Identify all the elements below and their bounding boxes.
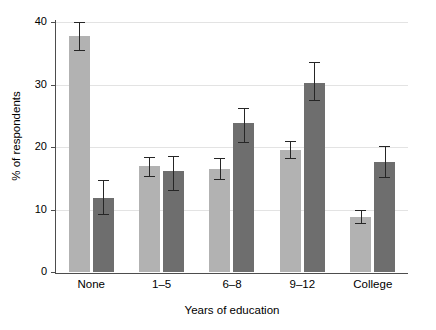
error-bar [149, 157, 150, 176]
error-bar-cap-lower [74, 50, 85, 51]
error-bar-cap-upper [214, 158, 225, 159]
y-axis-tick-label: 20 [35, 139, 47, 154]
y-axis-tick-label: 0 [41, 264, 47, 279]
bar [374, 162, 395, 272]
error-bar-cap-upper [285, 141, 296, 142]
error-bar [220, 158, 221, 179]
bar-group: College [338, 22, 408, 272]
error-bar-cap-upper [379, 146, 390, 147]
error-bar-cap-lower [285, 158, 296, 159]
error-bar-cap-upper [74, 22, 85, 23]
error-bar [314, 62, 315, 100]
x-axis-line [55, 273, 408, 274]
error-bar-cap-upper [238, 108, 249, 109]
y-axis-tick-label: 10 [35, 202, 47, 217]
error-bar-cap-lower [309, 100, 320, 101]
error-bar-cap-lower [238, 142, 249, 143]
error-bar [244, 108, 245, 142]
y-axis-tick-label: 30 [35, 77, 47, 92]
error-bar [79, 22, 80, 50]
bar-chart-figure: % of respondents 010203040 None1–56–89–1… [0, 0, 436, 330]
bar-group: None [56, 22, 126, 272]
error-bar-cap-lower [355, 223, 366, 224]
bar [139, 166, 160, 272]
error-bar-cap-upper [144, 157, 155, 158]
y-axis-tick-label: 40 [35, 14, 47, 29]
plot-area: None1–56–89–12College [56, 22, 408, 272]
x-axis-tick-label: 9–12 [290, 278, 316, 290]
error-bar [173, 156, 174, 190]
error-bar-cap-lower [379, 177, 390, 178]
bar [69, 36, 90, 272]
y-axis-title-label: % of respondents [10, 91, 22, 181]
error-bar-cap-lower [98, 214, 109, 215]
error-bar [385, 146, 386, 177]
bar [209, 169, 230, 272]
bar-group: 6–8 [197, 22, 267, 272]
error-bar-cap-lower [144, 176, 155, 177]
x-axis-tick-label: College [353, 278, 392, 290]
bar [350, 217, 371, 272]
error-bar [290, 141, 291, 159]
y-axis-title: % of respondents [6, 0, 26, 272]
error-bar [361, 210, 362, 223]
bar [280, 150, 301, 272]
x-axis-tick-label: 1–5 [152, 278, 171, 290]
bar-group: 1–5 [126, 22, 196, 272]
error-bar-cap-lower [168, 190, 179, 191]
bar-group: 9–12 [267, 22, 337, 272]
bar [233, 123, 254, 272]
x-axis-tick-label: 6–8 [222, 278, 241, 290]
error-bar-cap-upper [309, 62, 320, 63]
error-bar-cap-lower [214, 179, 225, 180]
error-bar-cap-upper [98, 180, 109, 181]
x-axis-title: Years of education [56, 304, 408, 316]
x-axis-tick-label: None [77, 278, 105, 290]
bar [304, 83, 325, 272]
error-bar-cap-upper [168, 156, 179, 157]
error-bar-cap-upper [355, 210, 366, 211]
error-bar [103, 180, 104, 214]
